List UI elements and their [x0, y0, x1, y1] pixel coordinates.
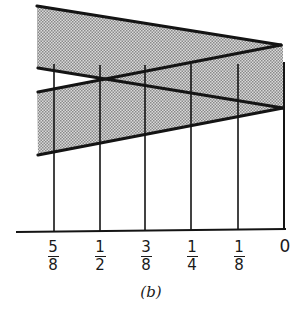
tick-label-1-8: 1 8	[229, 240, 249, 273]
tick-label-0: 0	[275, 238, 295, 254]
x-axis-baseline	[16, 229, 286, 232]
figure-caption: (b)	[131, 283, 171, 301]
tick-label-1-2: 1 2	[90, 240, 110, 273]
tick-label-5-8: 5 8	[43, 240, 63, 273]
tick-label-1-4: 1 4	[182, 240, 202, 273]
tick-label-3-8: 3 8	[136, 240, 156, 273]
